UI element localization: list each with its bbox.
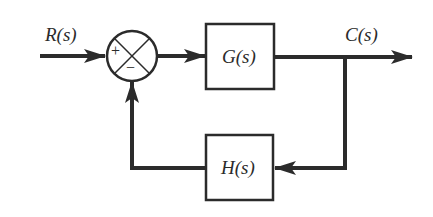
input-label: R(s) bbox=[45, 25, 77, 44]
feedback-path-right bbox=[275, 57, 345, 168]
feedback-block-label: H(s) bbox=[221, 158, 255, 177]
forward-block-label: G(s) bbox=[222, 47, 256, 66]
feedback-path-left bbox=[132, 82, 206, 168]
plus-sign: + bbox=[111, 43, 120, 59]
output-label: C(s) bbox=[345, 25, 378, 44]
minus-sign: − bbox=[126, 60, 135, 76]
